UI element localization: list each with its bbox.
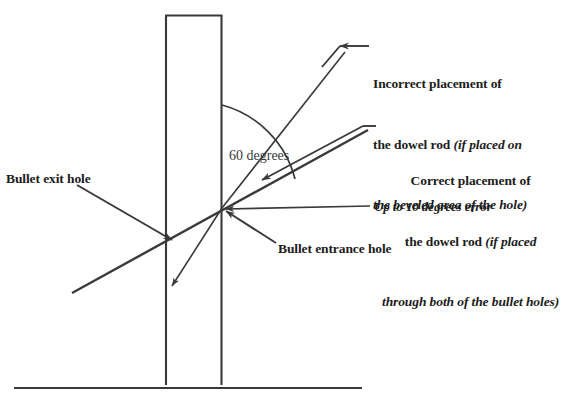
label-correct-line3: through both of the bullet holes) [382, 293, 559, 311]
label-bullet-entrance-hole: Bullet entrance hole [278, 240, 391, 258]
incorrect-trajectory-ray [222, 52, 345, 208]
entrance-hole-leader [226, 211, 276, 243]
label-correct-line2: the dowel rod (if placed [382, 231, 559, 252]
label-correct-line2-italic: (if placed [485, 234, 536, 249]
label-correct-placement: Correct placement of the dowel rod (if p… [382, 130, 559, 352]
label-bullet-exit-hole: Bullet exit hole [6, 170, 91, 188]
exit-hole-leader [77, 185, 172, 240]
wooden-post [165, 16, 223, 386]
label-error-note: Up to 10 degrees error [374, 199, 492, 216]
label-correct-line2-bold: the dowel rod [405, 234, 485, 249]
diagram-page: Incorrect placement of the dowel rod (if… [0, 0, 565, 399]
label-angle-measure: 60 degrees [229, 147, 289, 165]
label-incorrect-line1: Incorrect placement of [373, 75, 527, 93]
incorrect-placement-leader-diagonal [322, 46, 340, 67]
incorrect-trajectory-lower-segment [172, 208, 222, 286]
error-note-leader [226, 206, 370, 209]
incorrect-placement-leader [322, 46, 369, 67]
label-correct-line1: Correct placement of [382, 172, 559, 190]
